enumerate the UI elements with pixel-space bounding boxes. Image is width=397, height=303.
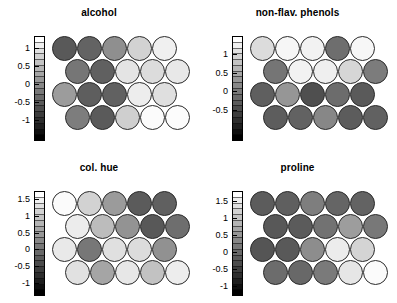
som-hex-cell[interactable] — [90, 59, 115, 84]
som-hex-cell[interactable] — [127, 237, 152, 262]
som-hex-cell[interactable] — [165, 59, 190, 84]
som-hex-cell[interactable] — [300, 191, 325, 216]
som-hex-cell[interactable] — [325, 191, 350, 216]
som-hex-cell[interactable] — [325, 36, 350, 61]
som-hex-cell[interactable] — [288, 260, 313, 285]
som-hex-cell[interactable] — [65, 105, 90, 130]
som-hex-cell[interactable] — [152, 237, 177, 262]
som-hex-cell[interactable] — [140, 59, 165, 84]
som-hex-cell[interactable] — [65, 214, 90, 239]
som-hex-cell[interactable] — [363, 59, 388, 84]
som-hex-cell[interactable] — [90, 105, 115, 130]
colorbar-tick-label: 0 — [198, 248, 228, 257]
som-hex-cell[interactable] — [338, 105, 363, 130]
som-hex-cell[interactable] — [263, 105, 288, 130]
colorbar-tick-label: -0.5 — [198, 265, 228, 274]
som-hex-cell[interactable] — [52, 191, 77, 216]
som-hex-cell[interactable] — [77, 82, 102, 107]
som-hex-cell[interactable] — [363, 214, 388, 239]
som-hex-cell[interactable] — [115, 214, 140, 239]
som-hex-cell[interactable] — [77, 191, 102, 216]
som-hex-row — [52, 59, 190, 84]
som-hex-cell[interactable] — [77, 36, 102, 61]
som-hex-cell[interactable] — [65, 59, 90, 84]
colorbar-tick-mark — [35, 66, 39, 67]
som-hex-grid — [250, 191, 388, 285]
som-hex-cell[interactable] — [338, 260, 363, 285]
som-hex-cell[interactable] — [115, 59, 140, 84]
som-hex-cell[interactable] — [152, 191, 177, 216]
som-hex-cell[interactable] — [250, 237, 275, 262]
som-hex-cell[interactable] — [102, 36, 127, 61]
som-hex-cell[interactable] — [115, 260, 140, 285]
som-hex-cell[interactable] — [338, 59, 363, 84]
som-hex-cell[interactable] — [52, 237, 77, 262]
som-hex-cell[interactable] — [102, 191, 127, 216]
som-hex-cell[interactable] — [263, 214, 288, 239]
som-hex-cell[interactable] — [263, 59, 288, 84]
som-hex-cell[interactable] — [250, 36, 275, 61]
som-hex-cell[interactable] — [65, 260, 90, 285]
som-hex-cell[interactable] — [165, 214, 190, 239]
colorbar-tick-mark — [233, 110, 237, 111]
som-hex-cell[interactable] — [115, 105, 140, 130]
som-hex-cell[interactable] — [300, 36, 325, 61]
colorbar-tick-label: -1 — [198, 282, 228, 291]
colorbar-tick-mark — [233, 54, 237, 55]
som-hex-cell[interactable] — [350, 191, 375, 216]
som-hex-cell[interactable] — [325, 237, 350, 262]
som-hex-cell[interactable] — [300, 237, 325, 262]
som-hex-cell[interactable] — [140, 214, 165, 239]
som-hex-cell[interactable] — [52, 36, 77, 61]
som-hex-cell[interactable] — [275, 237, 300, 262]
som-hex-row — [250, 59, 388, 84]
som-hex-row — [250, 237, 388, 262]
som-hex-cell[interactable] — [127, 36, 152, 61]
som-hex-row — [52, 191, 190, 216]
colorbar-tick-mark — [233, 252, 237, 253]
som-hex-cell[interactable] — [288, 214, 313, 239]
som-hex-cell[interactable] — [350, 82, 375, 107]
som-hex-row — [52, 36, 190, 61]
som-hex-cell[interactable] — [275, 82, 300, 107]
som-hex-cell[interactable] — [127, 82, 152, 107]
som-hex-cell[interactable] — [52, 82, 77, 107]
som-hex-grid — [52, 36, 190, 130]
som-hex-cell[interactable] — [313, 260, 338, 285]
som-hex-cell[interactable] — [90, 260, 115, 285]
som-hex-cell[interactable] — [165, 260, 190, 285]
som-hex-cell[interactable] — [313, 105, 338, 130]
som-hex-cell[interactable] — [102, 82, 127, 107]
som-hex-cell[interactable] — [288, 59, 313, 84]
som-hex-cell[interactable] — [263, 260, 288, 285]
som-hex-cell[interactable] — [90, 214, 115, 239]
som-hex-cell[interactable] — [350, 237, 375, 262]
som-hex-row — [52, 105, 190, 130]
som-hex-cell[interactable] — [288, 105, 313, 130]
som-hex-cell[interactable] — [313, 59, 338, 84]
colorbar-tick-mark — [35, 283, 39, 284]
som-hex-cell[interactable] — [140, 105, 165, 130]
som-hex-cell[interactable] — [250, 191, 275, 216]
som-hex-cell[interactable] — [363, 105, 388, 130]
som-hex-cell[interactable] — [363, 260, 388, 285]
som-hex-cell[interactable] — [165, 105, 190, 130]
som-hex-cell[interactable] — [152, 36, 177, 61]
som-hex-cell[interactable] — [250, 82, 275, 107]
som-hex-cell[interactable] — [313, 214, 338, 239]
component-plane-panel: non-flav. phenols10.50-0.5 — [198, 0, 397, 152]
som-hex-cell[interactable] — [300, 82, 325, 107]
som-hex-cell[interactable] — [152, 82, 177, 107]
som-hex-cell[interactable] — [275, 191, 300, 216]
som-hex-cell[interactable] — [140, 260, 165, 285]
som-hex-cell[interactable] — [338, 214, 363, 239]
som-hex-cell[interactable] — [350, 36, 375, 61]
som-hex-cell[interactable] — [102, 237, 127, 262]
som-hex-cell[interactable] — [127, 191, 152, 216]
colorbar-gradient — [233, 37, 242, 140]
som-hex-cell[interactable] — [77, 237, 102, 262]
som-hex-cell[interactable] — [275, 36, 300, 61]
som-hex-row — [52, 214, 190, 239]
colorbar-tick-label: 0.5 — [0, 229, 30, 238]
som-hex-cell[interactable] — [325, 82, 350, 107]
